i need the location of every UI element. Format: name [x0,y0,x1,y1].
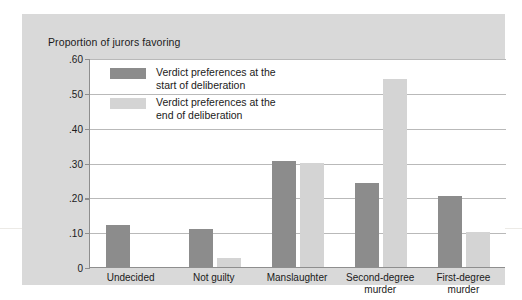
bar [189,229,213,267]
y-axis-tick-label: .60 [69,54,83,65]
bar [106,225,130,267]
y-axis-tick-label: .40 [69,123,83,134]
chart-panel: Proportion of jurors favoring .60.50.40.… [22,14,505,285]
y-axis-tick-mark [85,94,90,95]
gridline [90,129,506,130]
x-axis-category-label: Not guilty [172,272,255,284]
chart-axis-title: Proportion of jurors favoring [48,36,180,48]
gridline [90,59,506,60]
legend-label: Verdict preferences at the start of deli… [156,66,276,91]
bar [383,79,407,267]
bar [438,196,462,267]
y-axis-tick-label: .30 [69,158,83,169]
y-axis-tick-label: .20 [69,193,83,204]
y-axis-tick-mark [85,233,90,234]
chart-legend: Verdict preferences at the start of deli… [110,66,350,126]
x-axis-category-label: Manslaughter [255,272,338,284]
bar [355,183,379,267]
x-axis-category-label: Undecided [89,272,172,284]
y-axis-tick-mark [85,268,90,269]
bar [217,258,241,267]
legend-entry: Verdict preferences at the end of delibe… [110,96,350,121]
legend-label: Verdict preferences at the end of delibe… [156,96,276,121]
legend-entry: Verdict preferences at the start of deli… [110,66,350,91]
y-axis-tick-label: .50 [69,88,83,99]
x-axis-category-label: Second-degree murder [339,272,422,295]
y-axis-tick-mark [85,164,90,165]
y-axis-tick-labels: .60.50.40.30.20.100 [58,59,83,268]
bar [466,232,490,267]
x-axis-category-label: First-degree murder [422,272,505,295]
y-axis-tick-mark [85,59,90,60]
y-axis-tick-mark [85,129,90,130]
figure-root: Proportion of jurors favoring .60.50.40.… [0,0,522,300]
legend-swatch [110,98,146,109]
bar [272,161,296,267]
bar [300,163,324,268]
y-axis-tick-label: 0 [77,263,83,274]
gridline [90,164,506,165]
y-axis-tick-mark [85,198,90,199]
legend-swatch [110,68,146,79]
y-axis-tick-label: .10 [69,228,83,239]
